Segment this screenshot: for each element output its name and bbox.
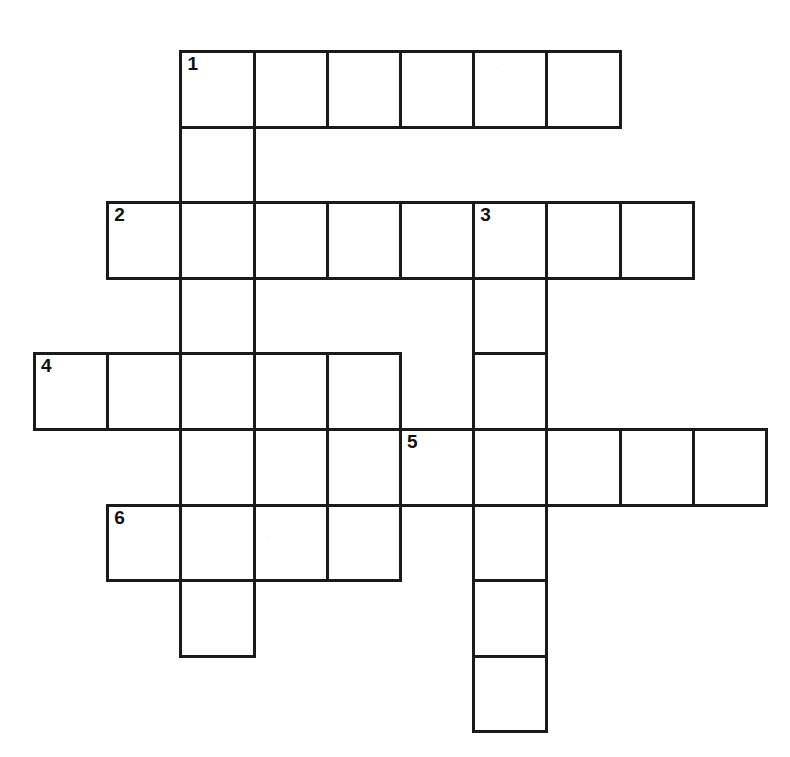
crossword-cell[interactable]	[472, 428, 548, 507]
crossword-cell[interactable]: 1	[179, 50, 255, 129]
crossword-cell[interactable]	[106, 352, 182, 431]
crossword-cell[interactable]	[472, 655, 548, 734]
crossword-grid: 123456	[0, 0, 790, 757]
crossword-cell[interactable]	[399, 201, 475, 280]
crossword-cell[interactable]	[399, 50, 475, 129]
crossword-cell[interactable]	[472, 50, 548, 129]
crossword-cell[interactable]	[179, 201, 255, 280]
crossword-cell[interactable]	[253, 201, 329, 280]
cell-number-4: 4	[41, 356, 51, 376]
crossword-cell[interactable]	[179, 126, 255, 205]
crossword-cell[interactable]	[472, 579, 548, 658]
crossword-cell[interactable]	[545, 201, 621, 280]
crossword-cell[interactable]	[619, 201, 695, 280]
crossword-cell[interactable]: 4	[33, 352, 109, 431]
crossword-cell[interactable]	[472, 504, 548, 583]
crossword-cell[interactable]	[179, 428, 255, 507]
crossword-cell[interactable]	[326, 201, 402, 280]
crossword-cell[interactable]: 3	[472, 201, 548, 280]
cell-number-1: 1	[187, 54, 197, 74]
cell-number-6: 6	[114, 508, 124, 528]
crossword-cell[interactable]: 6	[106, 504, 182, 583]
cell-number-5: 5	[407, 432, 417, 452]
cell-number-2: 2	[114, 205, 124, 225]
crossword-cell[interactable]	[253, 50, 329, 129]
crossword-cell[interactable]	[545, 50, 621, 129]
crossword-cell[interactable]	[692, 428, 768, 507]
crossword-cell[interactable]	[179, 352, 255, 431]
crossword-cell[interactable]	[179, 277, 255, 356]
crossword-cell[interactable]: 2	[106, 201, 182, 280]
crossword-cell[interactable]	[545, 428, 621, 507]
crossword-cell[interactable]	[619, 428, 695, 507]
crossword-cell[interactable]	[253, 504, 329, 583]
crossword-cell[interactable]	[326, 50, 402, 129]
cell-number-3: 3	[480, 205, 490, 225]
crossword-cell[interactable]	[179, 504, 255, 583]
crossword-cell[interactable]	[179, 579, 255, 658]
crossword-cell[interactable]: 5	[399, 428, 475, 507]
crossword-cell[interactable]	[326, 352, 402, 431]
crossword-cell[interactable]	[472, 277, 548, 356]
crossword-cell[interactable]	[253, 428, 329, 507]
crossword-puzzle: 123456	[0, 0, 790, 757]
crossword-cell[interactable]	[253, 352, 329, 431]
crossword-cell[interactable]	[472, 352, 548, 431]
crossword-cell[interactable]	[326, 504, 402, 583]
